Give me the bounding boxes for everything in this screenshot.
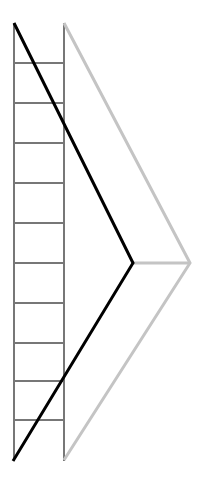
ladder bbox=[14, 23, 64, 461]
diagram-canvas bbox=[0, 0, 203, 484]
black-chevron-line bbox=[13, 23, 133, 461]
ladder-chevron-diagram bbox=[0, 0, 203, 484]
gray-chevron-line bbox=[64, 23, 190, 460]
